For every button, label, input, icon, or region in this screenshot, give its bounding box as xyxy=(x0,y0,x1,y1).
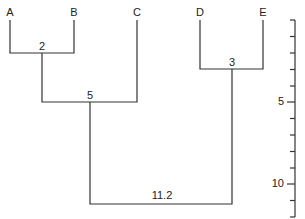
merge-label-de: 3 xyxy=(229,57,235,68)
leaf-label-e: E xyxy=(259,7,266,18)
scale-axis xyxy=(287,20,295,217)
leaf-label-d: D xyxy=(196,7,204,18)
scale-tick-label-5: 5 xyxy=(264,96,284,107)
merge-label-root: 11.2 xyxy=(152,190,173,201)
leaf-label-b: B xyxy=(70,7,77,18)
leaf-label-c: C xyxy=(133,7,141,18)
branch-abc-de xyxy=(90,69,232,204)
scale-tick-label-10: 10 xyxy=(264,178,284,189)
merge-label-ab: 2 xyxy=(39,41,45,52)
leaf-label-a: A xyxy=(6,7,13,18)
dendrogram xyxy=(0,0,305,219)
merge-label-abc: 5 xyxy=(87,90,93,101)
